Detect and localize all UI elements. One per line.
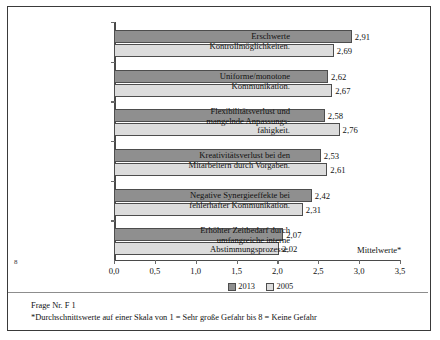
legend-swatch-2013 — [228, 283, 236, 291]
y-tick — [111, 22, 115, 23]
y-tick — [111, 220, 115, 221]
bar-value-label: 2,69 — [337, 46, 352, 56]
x-tick-label: 3,5 — [385, 266, 415, 276]
x-tick — [318, 260, 319, 264]
legend-label-2005: 2005 — [277, 282, 294, 291]
category-label: ErschwerteKontrollmöglichkeiten. — [172, 32, 290, 51]
x-tick-label: 1,5 — [222, 266, 252, 276]
footnote-question: Frage Nr. F 1 — [31, 300, 411, 312]
plot-area: Mittelwerte* 0,00,51,01,52,02,53,03,52,9… — [114, 22, 407, 260]
legend-item-2013: 2013 — [228, 282, 255, 291]
footnotes: Frage Nr. F 1 *Durchschnittswerte auf ei… — [31, 300, 411, 323]
x-tick — [155, 260, 156, 264]
footnote-scale: *Durchschnittswerte auf einer Skala von … — [31, 312, 411, 324]
x-tick — [196, 260, 197, 264]
x-tick-label: 1,0 — [181, 266, 211, 276]
footnote-divider — [8, 292, 428, 293]
bar-value-label: 2,42 — [315, 191, 330, 201]
legend-label-2013: 2013 — [238, 282, 255, 291]
legend-swatch-2005 — [266, 283, 274, 291]
category-label: Kreativitätsverlust bei denMitarbeitern … — [172, 151, 290, 170]
x-tick — [400, 260, 401, 264]
bar-value-label: 2,31 — [306, 205, 321, 215]
y-tick — [111, 141, 115, 142]
x-tick-label: 2,0 — [262, 266, 292, 276]
page-number-mark: 8 — [14, 258, 18, 266]
category-label: Flexibilitätsverlust undmangelnde Anpass… — [172, 107, 290, 136]
bar-value-label: 2,62 — [331, 72, 346, 82]
x-tick-label: 2,5 — [303, 266, 333, 276]
x-tick — [114, 260, 115, 264]
x-axis-line — [114, 260, 400, 261]
y-tick — [111, 181, 115, 182]
x-tick-label: 0,0 — [99, 266, 129, 276]
x-tick — [277, 260, 278, 264]
x-tick-label: 0,5 — [140, 266, 170, 276]
chart-page: 8 Mittelwerte* 0,00,51,01,52,02,53,03,52… — [0, 0, 440, 340]
legend-item-2005: 2005 — [266, 282, 293, 291]
y-tick — [111, 101, 115, 102]
bar-value-label: 2,67 — [335, 86, 350, 96]
category-label: Uniforme/monotoneKommunikation. — [172, 72, 290, 91]
chart-legend: 2013 2005 — [114, 282, 407, 291]
bar-value-label: 2,53 — [324, 151, 339, 161]
x-tick-label: 3,0 — [344, 266, 374, 276]
bar-value-label: 2,61 — [330, 165, 345, 175]
category-label: Negative Synergieeffekte beifehlerhafter… — [172, 191, 290, 210]
x-axis-title: Mittelwerte* — [357, 245, 401, 255]
x-tick — [359, 260, 360, 264]
y-tick — [111, 62, 115, 63]
category-label: Erhöhter Zeitbedarf durchumfangreiche in… — [172, 226, 290, 255]
bar-value-label: 2,91 — [355, 32, 370, 42]
x-tick — [237, 260, 238, 264]
bar-value-label: 2,58 — [328, 111, 343, 121]
bar-value-label: 2,76 — [343, 125, 358, 135]
